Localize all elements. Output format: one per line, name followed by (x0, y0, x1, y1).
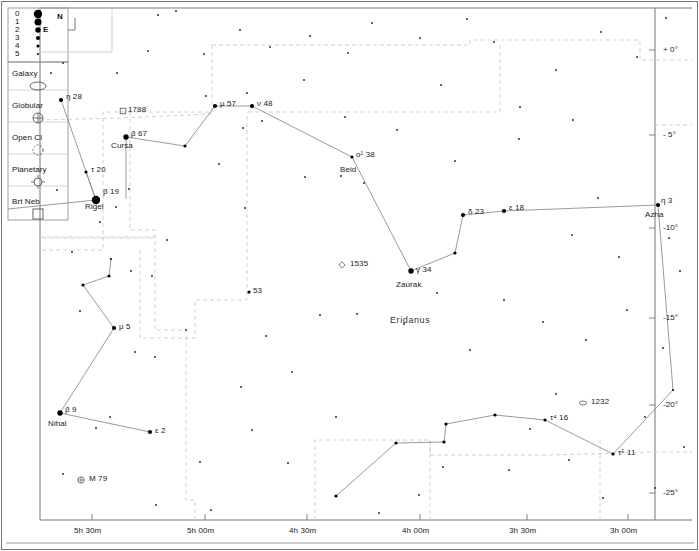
faint-star (240, 386, 242, 388)
legend-open-cluster-icon (33, 145, 43, 155)
faint-star (199, 461, 201, 463)
faint-star (128, 188, 130, 190)
faint-star (378, 512, 380, 514)
star-tau4_16 (543, 418, 546, 421)
constellation-line (60, 413, 150, 432)
faint-star (529, 428, 531, 430)
faint-star (419, 37, 421, 39)
faint-star (291, 371, 293, 373)
planetary-nebula-icon (339, 262, 345, 268)
faint-star (454, 160, 456, 162)
dso-label-m79: M 79 (89, 475, 107, 483)
dso-ngc1788 (120, 108, 126, 114)
star-label-tau20: τ 20 (91, 166, 106, 174)
star-mu5 (112, 326, 116, 330)
faint-star (246, 92, 248, 94)
star-chart: N E Eridanus 012345GalaxyGlobularOpen Cl… (0, 0, 699, 551)
dec-tick-label: -25° (663, 489, 678, 497)
faint-star (335, 416, 337, 418)
ra-tick-label: 4h 30m (289, 527, 316, 535)
faint-star (418, 494, 420, 496)
faint-star (205, 95, 207, 97)
faint-star (442, 466, 444, 468)
star-tau5_11 (611, 452, 614, 455)
faint-star (503, 299, 505, 301)
faint-star (134, 351, 136, 353)
constellation-line (352, 157, 411, 271)
star-riv_d (444, 422, 447, 425)
faint-star (636, 56, 638, 58)
faint-star (347, 52, 349, 54)
constellation-line (83, 285, 114, 328)
constellation-line (495, 415, 545, 420)
ra-tick-label: 5h 30m (74, 527, 101, 535)
legend-mag-dot-2 (35, 27, 40, 32)
faint-star (309, 35, 311, 37)
faint-star (130, 270, 132, 272)
dec-tick-label: -10° (663, 224, 678, 232)
dso-label-ngc1232: 1232 (591, 398, 609, 406)
faint-star (542, 321, 544, 323)
faint-star (466, 18, 468, 20)
constellation-line (444, 424, 446, 442)
constellation-line (109, 259, 111, 276)
faint-star (95, 427, 97, 429)
faint-star (147, 50, 149, 52)
star-riv_a (334, 494, 337, 497)
star-riv_b (394, 441, 397, 444)
faint-star (340, 175, 342, 177)
legend-symbol-layer (30, 10, 46, 219)
dso-ngc1535 (339, 262, 345, 268)
faint-star (644, 416, 646, 418)
star-label-azha: η 3 (661, 197, 672, 205)
faint-star (244, 207, 246, 209)
faint-star (115, 206, 117, 208)
faint-star (157, 14, 159, 16)
ra-tick-label: 4h 00m (402, 527, 429, 535)
faint-star (597, 197, 599, 199)
constellation-line (504, 205, 658, 211)
star-name-beid: Beid (340, 166, 356, 174)
faint-star (304, 176, 306, 178)
star-label-beid: ο¹ 38 (356, 151, 375, 159)
faint-star (99, 221, 101, 223)
faint-star (396, 129, 398, 131)
star-mu57 (213, 104, 217, 108)
legend-mag-dot-5 (37, 53, 39, 55)
star-lep_a (81, 283, 84, 286)
star-name-nihal: Nihal (48, 420, 67, 428)
constellation-name-label: Eridanus (390, 316, 430, 325)
faint-star (62, 473, 64, 475)
star-label-beta67: β 67 (131, 130, 147, 138)
star-name-beta67: Cursa (111, 142, 133, 150)
faint-star (436, 292, 438, 294)
star-riv_e (493, 413, 496, 416)
star-lep_b (107, 274, 110, 277)
legend-object-label-globular-cluster-icon: Globular (12, 102, 43, 110)
legend-magnitude-label-5: 5 (15, 50, 20, 58)
faint-star (371, 22, 373, 24)
faint-star (469, 349, 471, 351)
star-lep_c (110, 258, 112, 260)
dso-label-ngc1535: 1535 (350, 260, 368, 268)
faint-star (363, 182, 365, 184)
constellation-line (86, 172, 96, 200)
constellation-lines (8, 100, 673, 496)
faint-star (662, 347, 664, 349)
faint-star (50, 72, 52, 74)
star-star53 (247, 290, 250, 293)
faint-star (218, 163, 220, 165)
constellation-line (126, 137, 185, 146)
legend-galaxy-ellipse-icon (30, 82, 46, 90)
faint-star (242, 127, 244, 129)
faint-star (109, 416, 111, 418)
sky-map-canvas (0, 0, 699, 551)
dec-tick-label: - 5° (663, 131, 676, 139)
legend-mag-dot-4 (36, 44, 39, 47)
legend-object-label-planetary-nebula-icon: Planetary (12, 166, 47, 174)
faint-star (175, 10, 177, 12)
faint-star (665, 17, 667, 19)
faint-star (555, 69, 557, 71)
star-label-nu48: ν 48 (257, 100, 273, 108)
legend-object-label-open-cluster-icon: Open Cl (12, 134, 42, 142)
